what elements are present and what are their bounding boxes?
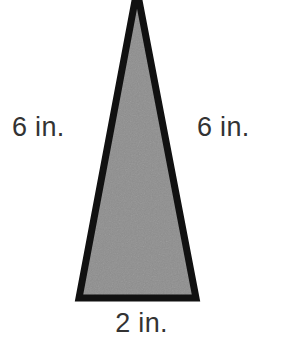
label-left-side: 6 in. (12, 114, 65, 141)
label-right-side: 6 in. (197, 114, 250, 141)
geometry-figure: 6 in. 6 in. 2 in. (0, 0, 283, 343)
triangle-shape (0, 0, 283, 343)
label-base: 2 in. (0, 310, 283, 337)
